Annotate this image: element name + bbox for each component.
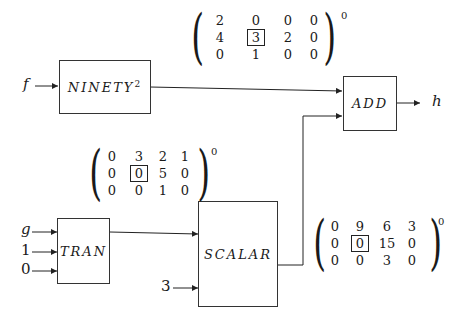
input-g-label: g xyxy=(21,222,31,237)
boxed-cell: 0 xyxy=(351,235,369,252)
ninety-block-label: NINETY2 xyxy=(68,79,142,95)
scalar-block-label: SCALAR xyxy=(204,247,272,262)
input-zero-label: 0 xyxy=(21,262,31,277)
matrix-tran-output: ( 0321 0050 0010 ) 0 xyxy=(86,140,256,210)
boxed-cell: 3 xyxy=(247,29,265,46)
output-h-label: h xyxy=(432,94,442,109)
input-three-label: 3 xyxy=(161,279,171,294)
tran-block: TRAN xyxy=(57,218,110,284)
ninety-squared-block: NINETY2 xyxy=(59,60,151,114)
dataflow-diagram: NINETY2 ADD TRAN SCALAR f h g 1 0 3 ( 20… xyxy=(0,0,462,322)
input-f-label: f xyxy=(23,77,29,92)
matrix-scalar-output: ( 0963 00150 0030 ) 0 xyxy=(312,210,462,280)
input-one-label: 1 xyxy=(21,243,31,258)
tran-block-label: TRAN xyxy=(60,244,107,259)
boxed-cell: 0 xyxy=(130,165,148,182)
scalar-block: SCALAR xyxy=(198,201,278,307)
matrix-ninety-output: ( 2000 4320 0100 ) 0 xyxy=(188,4,358,74)
add-block: ADD xyxy=(343,76,397,131)
add-block-label: ADD xyxy=(352,96,388,111)
